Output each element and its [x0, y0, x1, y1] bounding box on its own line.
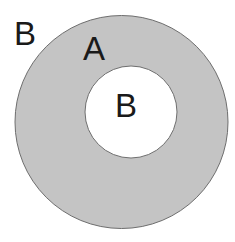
- label-inner-b: B: [115, 87, 137, 124]
- diagram-canvas: B A B: [0, 0, 235, 242]
- label-outside-b: B: [14, 15, 36, 52]
- label-ring-a: A: [83, 30, 105, 67]
